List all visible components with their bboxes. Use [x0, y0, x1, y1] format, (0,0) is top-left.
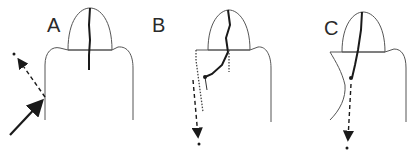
reflect-arrow-a [19, 60, 45, 97]
panel-b [193, 10, 271, 146]
displacement-arrow-c [348, 84, 351, 139]
force-arrow-a [10, 102, 41, 135]
panel-c [330, 12, 406, 150]
root-outline-b [196, 47, 271, 122]
crack-b [205, 10, 230, 77]
crack-a [89, 8, 90, 70]
root-outline-c [330, 49, 406, 122]
panel-label-b: B [152, 14, 165, 37]
panel-label-c: C [324, 17, 338, 40]
crown-outline-c [342, 12, 385, 52]
diagram-canvas [0, 0, 418, 163]
crack-c [352, 12, 362, 78]
root-left-c [330, 52, 345, 120]
displacement-arrow-b [193, 80, 198, 136]
panel-a [10, 8, 133, 135]
panel-label-a: A [47, 14, 60, 37]
